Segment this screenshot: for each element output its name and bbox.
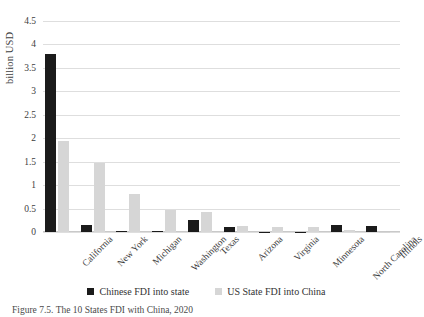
x-axis-tick-label: Arizona <box>256 234 285 263</box>
bar <box>201 212 212 232</box>
bar-group <box>79 21 115 232</box>
x-axis-category-labels: CaliforniaNew YorkMichiganWashingtonTexa… <box>43 234 400 286</box>
bar-group <box>364 21 400 232</box>
bar <box>152 231 163 232</box>
bar-group <box>114 21 150 232</box>
y-axis-tick-label: 4 <box>31 39 36 49</box>
x-axis-tick-label: Michigan <box>151 234 184 267</box>
bar <box>81 225 92 232</box>
bar-series-container <box>43 21 400 232</box>
y-axis-tick-label: 1 <box>31 180 36 190</box>
bar <box>344 230 355 232</box>
gridline <box>43 232 400 233</box>
bar <box>308 227 319 232</box>
y-axis-tick-label: 3 <box>31 86 36 96</box>
y-axis-tick-label: 2.5 <box>24 110 36 120</box>
bar-group <box>222 21 258 232</box>
legend-swatch-icon <box>87 288 94 295</box>
x-axis-tick-label: California <box>80 234 114 268</box>
y-axis-tick-label: 0.5 <box>24 204 36 214</box>
bar <box>224 227 235 232</box>
y-axis-tick-label: 2 <box>31 133 36 143</box>
y-axis-tick-label: 3.5 <box>24 63 36 73</box>
bar <box>165 210 176 232</box>
bar-group <box>150 21 186 232</box>
y-axis-tick-label: 1.5 <box>24 157 36 167</box>
bar <box>94 163 105 232</box>
y-axis-tick-label: 4.5 <box>24 16 36 26</box>
bar <box>331 225 342 232</box>
chart-legend: Chinese FDI into stateUS State FDI into … <box>0 286 413 297</box>
bar <box>237 226 248 232</box>
x-axis-tick-label: Minnesota <box>330 234 365 269</box>
bar <box>366 226 377 232</box>
bar-group <box>329 21 365 232</box>
bar <box>272 227 283 232</box>
legend-entry: US State FDI into China <box>215 286 325 297</box>
legend-label: US State FDI into China <box>227 286 325 297</box>
bar <box>58 141 69 232</box>
bar <box>129 194 140 232</box>
bar <box>188 220 199 232</box>
x-axis-tick-label: Virginia <box>292 234 321 263</box>
legend-entry: Chinese FDI into state <box>87 286 189 297</box>
legend-label: Chinese FDI into state <box>99 286 189 297</box>
bar-group <box>257 21 293 232</box>
x-axis-tick-label: New York <box>116 234 150 268</box>
figure-caption: Figure 7.5. The 10 States FDI with China… <box>12 305 407 315</box>
y-axis-tick-labels: 00.511.522.533.544.5 <box>0 21 39 232</box>
bar <box>45 54 56 232</box>
y-axis-tick-label: 0 <box>31 227 36 237</box>
bar-group <box>43 21 79 232</box>
legend-swatch-icon <box>215 288 222 295</box>
bar-group <box>293 21 329 232</box>
bar <box>116 231 127 232</box>
bar-group <box>186 21 222 232</box>
